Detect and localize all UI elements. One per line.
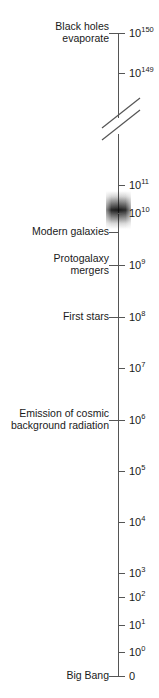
modern-galaxy-epoch-band [106, 191, 131, 229]
event-leader-tick [109, 33, 118, 34]
axis-tick-label: 101 [129, 620, 145, 631]
axis-tick [118, 317, 125, 318]
tick-exponent: 10 [141, 205, 149, 214]
tick-exponent: 150 [141, 25, 154, 34]
tick-exponent: 4 [141, 514, 145, 523]
tick-mantissa: 10 [129, 259, 141, 271]
tick-mantissa: 10 [129, 179, 141, 191]
tick-mantissa: 10 [129, 567, 141, 579]
axis-break-icon [96, 96, 146, 144]
axis-tick-label: 10150 [129, 28, 154, 39]
tick-exponent: 8 [141, 309, 145, 318]
tick-exponent: 3 [141, 565, 145, 574]
event-label-first-stars: First stars [63, 310, 109, 323]
cosmic-timeline-figure: 1015010149101110101091081071061051041031… [0, 0, 159, 698]
axis-tick-label: 100 [129, 647, 145, 658]
event-leader-tick [109, 232, 118, 233]
axis-tick [118, 368, 125, 369]
axis-tick [118, 625, 125, 626]
axis-tick [118, 420, 125, 421]
tick-exponent: 1 [141, 617, 145, 626]
axis-tick-label: 106 [129, 415, 145, 426]
axis-tick [118, 213, 125, 214]
axis-tick [118, 185, 125, 186]
event-label-line: Protogalaxy [54, 252, 109, 265]
axis-tick [118, 597, 125, 598]
tick-exponent: 9 [141, 257, 145, 266]
axis-tick [118, 522, 125, 523]
axis-tick [118, 265, 125, 266]
event-label-black-holes-evaporate: Black holesevaporate [55, 20, 109, 45]
axis-tick-label: 10149 [129, 68, 154, 79]
event-label-line: evaporate [55, 32, 109, 45]
axis-tick [118, 471, 125, 472]
tick-mantissa: 10 [129, 207, 141, 219]
event-label-cmb-emission: Emission of cosmicbackground radiation [11, 407, 109, 432]
tick-exponent: 2 [141, 589, 145, 598]
event-label-line: Black holes [55, 20, 109, 33]
event-label-modern-galaxies: Modern galaxies [32, 225, 109, 238]
tick-mantissa: 10 [129, 414, 141, 426]
axis-tick-label: 107 [129, 363, 145, 374]
event-label-line: First stars [63, 310, 109, 323]
axis-tick-label: 104 [129, 517, 145, 528]
event-label-protogalaxy-mergers: Protogalaxymergers [54, 252, 109, 277]
tick-mantissa: 10 [129, 619, 141, 631]
axis-tick [118, 573, 125, 574]
tick-exponent: 5 [141, 463, 145, 472]
tick-mantissa: 10 [129, 646, 141, 658]
axis-tick-label: 0 [129, 671, 135, 682]
tick-mantissa: 10 [129, 362, 141, 374]
axis-tick-label: 108 [129, 312, 145, 323]
event-label-line: background radiation [11, 419, 109, 432]
event-label-line: Big Bang [66, 669, 109, 682]
axis-tick-label: 1011 [129, 180, 149, 191]
tick-exponent: 149 [141, 65, 154, 74]
tick-mantissa: 10 [129, 27, 141, 39]
tick-mantissa: 10 [129, 311, 141, 323]
axis-tick [118, 676, 125, 677]
event-label-line: Modern galaxies [32, 225, 109, 238]
tick-mantissa: 10 [129, 465, 141, 477]
axis-tick [118, 652, 125, 653]
event-label-line: Emission of cosmic [11, 407, 109, 420]
tick-exponent: 6 [141, 412, 145, 421]
axis-tick-label: 109 [129, 260, 145, 271]
event-label-line: mergers [54, 264, 109, 277]
tick-exponent: 11 [141, 177, 149, 186]
axis-tick-label: 105 [129, 466, 145, 477]
tick-mantissa: 10 [129, 67, 141, 79]
axis-tick-label: 102 [129, 592, 145, 603]
tick-exponent: 0 [141, 644, 145, 653]
axis-tick [118, 33, 125, 34]
event-leader-tick [109, 317, 118, 318]
event-leader-tick [109, 265, 118, 266]
event-leader-tick [109, 676, 118, 677]
axis-tick-label: 103 [129, 568, 145, 579]
clipped-top-caption [100, 0, 159, 6]
tick-mantissa: 10 [129, 516, 141, 528]
axis-tick [118, 73, 125, 74]
axis-tick-label: 1010 [129, 208, 150, 219]
tick-exponent: 7 [141, 360, 145, 369]
event-leader-tick [109, 420, 118, 421]
tick-mantissa: 10 [129, 591, 141, 603]
event-label-big-bang: Big Bang [66, 669, 109, 682]
